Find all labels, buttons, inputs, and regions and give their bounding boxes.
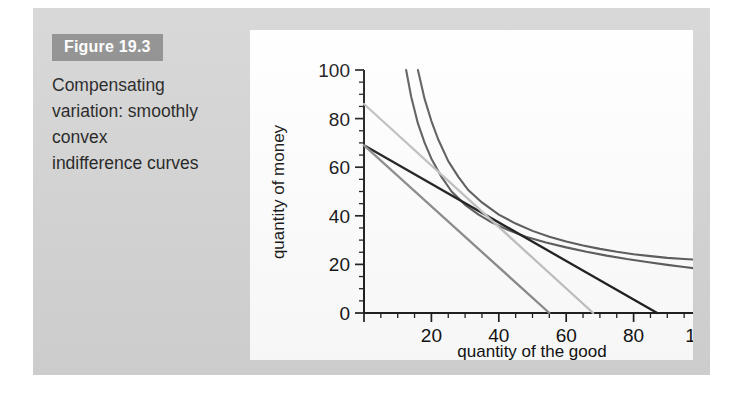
budget-line-dark [364, 145, 657, 313]
budget-line-mid [364, 145, 549, 313]
x-tick-label: 100 [685, 325, 693, 346]
figure-caption-text: Compensating variation: smoothly convex … [52, 72, 202, 176]
figure-page: Figure 19.3 Compensating variation: smoo… [33, 8, 710, 375]
figure-plot-panel: 020406080100 quantity of money 204060801… [250, 30, 693, 360]
budget-line-light [364, 104, 593, 313]
y-axis-group: 020406080100 quantity of money [269, 60, 364, 324]
y-tick-label: 20 [329, 254, 350, 275]
x-tick-label: 80 [623, 325, 644, 346]
figure-number-badge: Figure 19.3 [52, 34, 163, 61]
y-axis-ticks [355, 70, 364, 313]
y-tick-label: 40 [329, 206, 350, 227]
chart-series-group [364, 70, 693, 313]
x-axis-ticks [364, 313, 693, 322]
y-tick-label: 80 [329, 109, 350, 130]
x-tick-label: 20 [421, 325, 442, 346]
y-tick-label: 100 [318, 60, 350, 81]
indifference-curve-lower [406, 70, 693, 269]
y-tick-label: 60 [329, 157, 350, 178]
y-tick-label: 0 [339, 303, 350, 324]
x-axis-group: 20406080100 quantity of the good [364, 313, 693, 360]
y-axis-tick-labels: 020406080100 [318, 60, 350, 324]
indifference-curve-chart: 020406080100 quantity of money 204060801… [250, 30, 693, 360]
x-axis-title: quantity of the good [457, 342, 606, 360]
figure-caption-block: Figure 19.3 Compensating variation: smoo… [52, 34, 252, 176]
y-axis-title: quantity of money [269, 124, 288, 259]
